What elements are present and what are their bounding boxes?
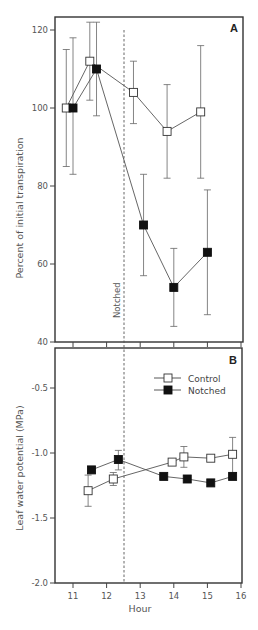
open-square-marker-icon: [84, 487, 92, 495]
open-square-marker-icon: [168, 458, 176, 466]
panel-b-series: [84, 437, 236, 506]
y-tick-label: 60: [37, 259, 48, 269]
open-square-marker-icon: [163, 127, 171, 135]
filled-square-marker-icon: [229, 472, 237, 480]
x-tick-label: 12: [101, 591, 112, 601]
y-tick-label: -2.0: [31, 578, 48, 588]
open-square-marker-icon: [197, 108, 205, 116]
legend-control-marker-icon: [164, 374, 172, 382]
filled-square-marker-icon: [170, 283, 178, 291]
y-tick-label: -1.5: [31, 513, 48, 523]
filled-square-marker-icon: [93, 65, 101, 73]
x-tick-label: 16: [236, 591, 247, 601]
filled-square-marker-icon: [69, 104, 77, 112]
legend: Control Notched: [154, 374, 226, 396]
x-tick-label: 15: [202, 591, 213, 601]
filled-square-marker-icon: [207, 479, 215, 487]
x-axis-title: Hour: [129, 603, 152, 614]
y-tick-label: 80: [37, 181, 48, 191]
y-tick-label: 100: [32, 103, 48, 113]
y-tick-label: -1.0: [31, 448, 48, 458]
open-square-marker-icon: [229, 450, 237, 458]
open-square-marker-icon: [207, 454, 215, 462]
panel-a-series: [62, 22, 211, 326]
panel-b-label: B: [229, 354, 237, 366]
x-tick-label: 13: [135, 591, 146, 601]
open-square-marker-icon: [180, 453, 188, 461]
legend-notched-label: Notched: [188, 386, 226, 396]
filled-square-marker-icon: [160, 472, 168, 480]
y-tick-label: 40: [37, 337, 48, 347]
x-tick-label: 14: [168, 591, 179, 601]
y-tick-label: 120: [32, 25, 48, 35]
panel-a-frame: [55, 17, 243, 342]
open-square-marker-icon: [129, 88, 137, 96]
filled-square-marker-icon: [140, 221, 148, 229]
panel-b-axes: -2.0-1.5-1.0-0.5111213141516: [31, 383, 246, 601]
legend-notched-marker-icon: [164, 386, 172, 394]
panel-a-axes: 406080100120: [32, 25, 241, 347]
panel-a-label: A: [230, 22, 238, 34]
notched-annotation: Notched: [112, 282, 122, 318]
panel-a-y-axis-title: Percent of initial transpiration: [14, 137, 25, 278]
x-tick-label: 11: [68, 591, 79, 601]
filled-square-marker-icon: [203, 248, 211, 256]
series-line-notched: [73, 69, 207, 287]
y-tick-label: -0.5: [31, 383, 48, 393]
open-square-marker-icon: [109, 475, 117, 483]
panel-b-y-axis-title: Leaf water potential (MPa): [14, 405, 25, 530]
filled-square-marker-icon: [87, 466, 95, 474]
filled-square-marker-icon: [114, 456, 122, 464]
figure: 406080100120 -2.0-1.5-1.0-0.511121314151…: [0, 0, 258, 630]
open-square-marker-icon: [86, 57, 94, 65]
legend-control-label: Control: [188, 374, 221, 384]
filled-square-marker-icon: [183, 475, 191, 483]
